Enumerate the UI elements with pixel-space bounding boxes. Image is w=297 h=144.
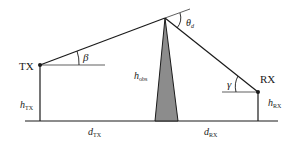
theta-d-label: θd (186, 17, 195, 29)
rx-point (256, 90, 260, 94)
rx-ray (165, 18, 258, 92)
d-rx-label: dRX (204, 126, 218, 138)
beta-arc (77, 51, 79, 65)
obstacle (155, 18, 178, 121)
d-tx-label: dTX (88, 126, 102, 138)
tx-point (38, 63, 42, 67)
tx-ray (40, 18, 165, 65)
beta-label: β (82, 51, 89, 63)
theta-arc (177, 13, 181, 28)
diffraction-diagram: TX RX β γ θd hTX hRX hobs dTX dRX (0, 0, 297, 144)
rx-label: RX (260, 73, 275, 85)
h-tx-label: hTX (20, 99, 34, 111)
gamma-arc (235, 76, 238, 92)
h-rx-label: hRX (268, 97, 282, 109)
h-obs-label: hobs (134, 70, 148, 82)
tx-label: TX (19, 60, 34, 72)
gamma-label: γ (227, 78, 232, 90)
